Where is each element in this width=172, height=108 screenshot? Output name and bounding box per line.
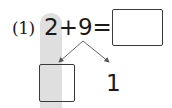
decomposition-arrows: [0, 0, 172, 108]
decomposition-left-box[interactable]: [39, 64, 75, 102]
decomposition-right-value: 1: [106, 70, 121, 96]
arrow-left-icon: [59, 41, 83, 62]
arrow-right-icon: [83, 41, 109, 62]
